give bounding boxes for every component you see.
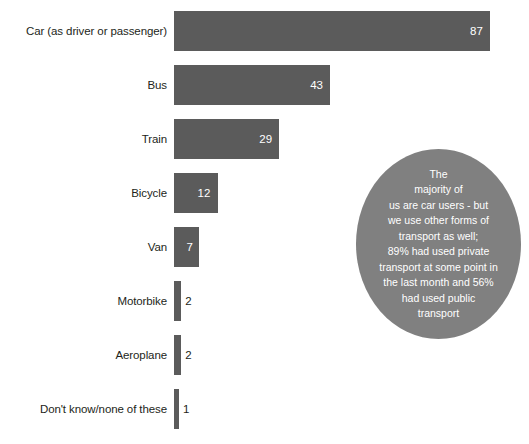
category-label: Bus [0, 79, 167, 92]
bar-chart: Car (as driver or passenger)87Bus43Train… [0, 0, 529, 444]
bar-track: 1 [174, 389, 529, 429]
bar [174, 11, 490, 51]
bar [174, 335, 181, 375]
bar-row: Car (as driver or passenger)87 [0, 11, 529, 51]
callout-line: The [429, 167, 447, 183]
callout-line: transport as well; [399, 229, 478, 245]
bar [174, 389, 179, 429]
bar [174, 65, 330, 105]
bar [174, 281, 181, 321]
bar-value-label: 43 [310, 79, 323, 91]
callout-line: the last month and 56% [383, 275, 493, 291]
bar-value-label: 87 [470, 25, 483, 37]
category-label: Train [0, 133, 167, 146]
bar-value-label: 2 [185, 295, 191, 307]
bar-row: Don't know/none of these1 [0, 389, 529, 429]
callout-line: transport [418, 306, 459, 322]
callout-line: we use other forms of [388, 213, 489, 229]
callout-line: majority of [414, 182, 462, 198]
category-label: Van [0, 241, 167, 254]
bar-value-label: 7 [186, 241, 192, 253]
category-label: Don't know/none of these [0, 403, 167, 416]
callout-line: had used public [402, 291, 476, 307]
bar-row: Bus43 [0, 65, 529, 105]
category-label: Car (as driver or passenger) [0, 25, 167, 38]
bar-value-label: 2 [185, 349, 191, 361]
bar [174, 173, 218, 213]
bar-value-label: 29 [259, 133, 272, 145]
category-label: Aeroplane [0, 349, 167, 362]
bar-value-label: 12 [198, 187, 211, 199]
bar-value-label: 1 [183, 403, 189, 415]
callout-line: transport at some point in [379, 260, 497, 276]
category-label: Bicycle [0, 187, 167, 200]
bar-row: Aeroplane2 [0, 335, 529, 375]
callout-line: 89% had used private [388, 244, 490, 260]
callout-line: us are car users - but [389, 198, 488, 214]
bar-track: 43 [174, 65, 529, 105]
bar-track: 29 [174, 119, 529, 159]
callout-annotation: Themajority ofus are car users - butwe u… [356, 149, 521, 339]
category-label: Motorbike [0, 295, 167, 308]
bar-track: 2 [174, 335, 529, 375]
bar-track: 87 [174, 11, 529, 51]
